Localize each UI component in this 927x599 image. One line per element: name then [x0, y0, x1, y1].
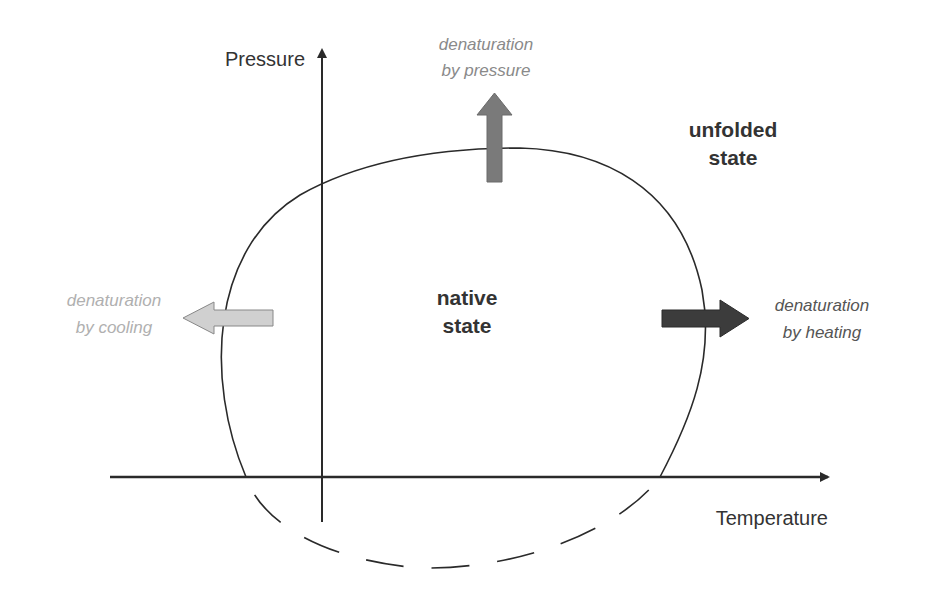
cooling-denaturation-label-line1: denaturation [67, 291, 162, 310]
temperature-axis-label: Temperature [716, 507, 828, 529]
native-state-boundary [221, 148, 705, 477]
cooling-denaturation-label-line2: by cooling [76, 318, 153, 337]
pressure-arrow-icon [477, 93, 512, 182]
native-state-label-line1: native [437, 286, 498, 309]
heating-denaturation-label-line1: denaturation [775, 296, 870, 315]
pressure-axis-label: Pressure [225, 48, 305, 70]
protein-phase-diagram: Pressure Temperature native state unfold… [0, 0, 927, 599]
pressure-denaturation-label-line2: by pressure [442, 61, 531, 80]
pressure-denaturation-label-line1: denaturation [439, 35, 534, 54]
native-state-boundary-extrapolated [246, 477, 660, 568]
unfolded-state-label-line2: state [708, 146, 757, 169]
unfolded-state-label-line1: unfolded [689, 118, 778, 141]
native-state-label-line2: state [442, 314, 491, 337]
cooling-arrow-icon [183, 302, 273, 334]
heating-denaturation-label-line2: by heating [783, 323, 862, 342]
